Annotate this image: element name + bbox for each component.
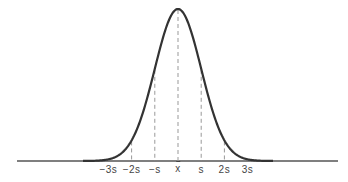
tick-label: s	[198, 164, 204, 175]
tick-label: 2s	[219, 164, 231, 175]
tick-label: −2s	[123, 164, 141, 175]
tick-label-mean: x	[175, 163, 181, 174]
mean-bar-icon	[176, 161, 180, 162]
reference-lines	[108, 10, 247, 161]
tick-label: −3s	[99, 164, 117, 175]
tick-label: 3s	[242, 164, 254, 175]
chart-canvas	[0, 0, 348, 182]
tick-label: −s	[149, 164, 161, 175]
